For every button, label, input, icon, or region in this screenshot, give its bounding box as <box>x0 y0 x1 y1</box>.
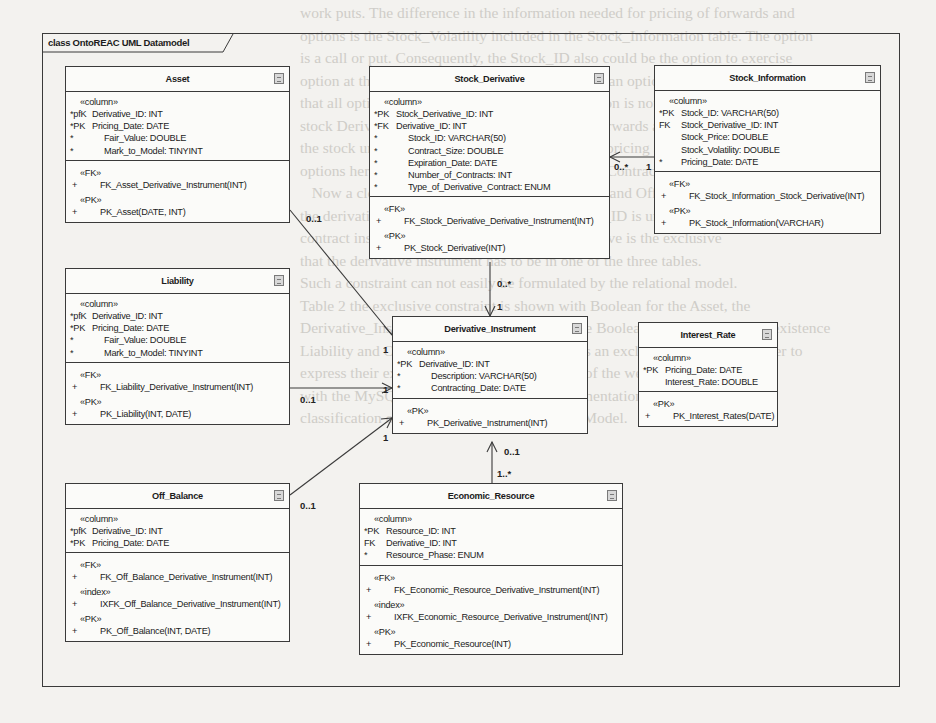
column-row[interactable]: *Number_of_Contracts: INT <box>374 169 605 181</box>
operation-stereotype: «index» <box>364 599 618 611</box>
column-row[interactable]: *Expiration_Date: DATE <box>374 157 605 169</box>
column-name: Stock_Derivative_ID: INT <box>681 119 876 131</box>
operation-row[interactable]: +PK_Economic_Resource(INT) <box>364 638 618 651</box>
column-key-marker: * <box>374 145 396 157</box>
column-stereotype: «column» <box>70 298 285 310</box>
column-row[interactable]: *Stock_ID: VARCHAR(50) <box>374 132 605 144</box>
operation-row[interactable]: +PK_Liability(INT, DATE) <box>70 408 285 421</box>
operation-row[interactable]: +IXFK_Economic_Resource_Derivative_Instr… <box>364 611 618 624</box>
column-row[interactable]: *PKDerivative_ID: INT <box>397 358 583 370</box>
operation-row[interactable]: +PK_Stock_Information(VARCHAR) <box>659 217 876 230</box>
visibility-marker: + <box>70 179 94 192</box>
column-row[interactable]: *FKDerivative_ID: INT <box>374 120 605 132</box>
operation-row[interactable]: +FK_Asset_Derivative_Instrument(INT) <box>70 179 285 192</box>
table-header: Stock_Derivative <box>370 67 609 92</box>
table-name: Derivative_Instrument <box>444 324 535 334</box>
column-name: Pricing_Date: DATE <box>92 537 285 549</box>
column-row[interactable]: Stock_Price: DOUBLE <box>659 131 876 143</box>
operation-row[interactable]: +PK_Interest_Rates(DATE) <box>643 410 773 423</box>
column-row[interactable]: *Fair_Value: DOUBLE <box>70 132 285 144</box>
column-row[interactable]: Stock_Volatility: DOUBLE <box>659 144 876 156</box>
column-row[interactable]: *PKPricing_Date: DATE <box>70 537 285 549</box>
column-row[interactable]: *Contract_Size: DOUBLE <box>374 145 605 157</box>
column-row[interactable]: *Resource_Phase: ENUM <box>364 549 618 561</box>
column-row[interactable]: *PKStock_Derivative_ID: INT <box>374 108 605 120</box>
column-row[interactable]: *Description: VARCHAR(50) <box>397 370 583 382</box>
column-row[interactable]: *Mark_to_Model: TINYINT <box>70 145 285 157</box>
table-name: Economic_Resource <box>448 491 535 501</box>
table-element-icon <box>607 490 617 501</box>
column-row[interactable]: *Type_of_Derivative_Contract: ENUM <box>374 181 605 193</box>
table-header: Economic_Resource <box>360 484 622 509</box>
table-element-icon <box>274 490 284 501</box>
columns-section: «column»*PKStock_ID: VARCHAR(50)FKStock_… <box>655 91 880 171</box>
operation-row[interactable]: +FK_Stock_Derivative_Derivative_Instrume… <box>374 215 605 228</box>
operation-name: FK_Stock_Derivative_Derivative_Instrumen… <box>398 215 594 228</box>
table-interest-rate[interactable]: Interest_Rate«column»*PKPricing_Date: DA… <box>638 322 778 427</box>
column-row[interactable]: *Mark_to_Model: TINYINT <box>70 347 285 359</box>
column-row[interactable]: *PKStock_ID: VARCHAR(50) <box>659 107 876 119</box>
column-name: Derivative_ID: INT <box>419 358 583 370</box>
table-economic-resource[interactable]: Economic_Resource«column»*PKResource_ID:… <box>359 483 623 655</box>
column-row[interactable]: *pfKDerivative_ID: INT <box>70 525 285 537</box>
column-key-marker: *pfK <box>70 108 92 120</box>
column-name: Resource_ID: INT <box>386 525 618 537</box>
table-off-balance[interactable]: Off_Balance«column»*pfKDerivative_ID: IN… <box>65 483 290 642</box>
operation-row[interactable]: +IXFK_Off_Balance_Derivative_Instrument(… <box>70 598 285 611</box>
mult-econ-dst: 0..1 <box>504 446 520 457</box>
operation-row[interactable]: +FK_Off_Balance_Derivative_Instrument(IN… <box>70 571 285 584</box>
operation-name: IXFK_Economic_Resource_Derivative_Instru… <box>388 611 607 624</box>
column-row[interactable]: Interest_Rate: DOUBLE <box>643 376 773 388</box>
mult-liability-src: 0..1 <box>300 394 316 405</box>
table-header: Interest_Rate <box>639 323 777 348</box>
column-name: Mark_to_Model: TINYINT <box>92 145 285 157</box>
column-key-marker: *PK <box>397 358 419 370</box>
operation-row[interactable]: +FK_Liability_Derivative_Instrument(INT) <box>70 381 285 394</box>
column-row[interactable]: *PKPricing_Date: DATE <box>70 322 285 334</box>
operation-row[interactable]: +PK_Off_Balance(INT, DATE) <box>70 625 285 638</box>
column-row[interactable]: *Fair_Value: DOUBLE <box>70 334 285 346</box>
column-key-marker: *PK <box>659 107 681 119</box>
operations-section: «FK»+FK_Stock_Information_Stock_Derivati… <box>655 171 880 233</box>
column-row[interactable]: *Contracting_Date: DATE <box>397 382 583 394</box>
column-key-marker: * <box>374 132 396 144</box>
operation-row[interactable]: +PK_Asset(DATE, INT) <box>70 206 285 219</box>
table-name: Off_Balance <box>152 491 203 501</box>
column-name: Derivative_ID: INT <box>92 310 285 322</box>
mult-econ-src: 1..* <box>497 468 511 479</box>
mult-stockder-src: 0..* <box>497 278 511 289</box>
column-row[interactable]: *PKResource_ID: INT <box>364 525 618 537</box>
operations-section: «PK»+PK_Derivative_Instrument(INT) <box>393 398 587 433</box>
column-row[interactable]: *PKPricing_Date: DATE <box>70 120 285 132</box>
column-row[interactable]: *pfKDerivative_ID: INT <box>70 310 285 322</box>
column-row[interactable]: *pfKDerivative_ID: INT <box>70 108 285 120</box>
operation-row[interactable]: +PK_Derivative_Instrument(INT) <box>397 417 583 430</box>
operation-row[interactable]: +FK_Stock_Information_Stock_Derivative(I… <box>659 190 876 203</box>
column-name: Resource_Phase: ENUM <box>386 549 618 561</box>
column-name: Stock_ID: VARCHAR(50) <box>396 132 605 144</box>
table-liability[interactable]: Liability«column»*pfKDerivative_ID: INT*… <box>65 268 290 425</box>
column-row[interactable]: *PKPricing_Date: DATE <box>643 364 773 376</box>
visibility-marker: + <box>659 217 683 230</box>
table-stock-derivative[interactable]: Stock_Derivative«column»*PKStock_Derivat… <box>369 66 610 259</box>
operations-section: «PK»+PK_Interest_Rates(DATE) <box>639 391 777 426</box>
mult-offbal-dst: 1 <box>383 432 388 443</box>
operation-row[interactable]: +FK_Economic_Resource_Derivative_Instrum… <box>364 584 618 597</box>
column-name: Derivative_ID: INT <box>92 525 285 537</box>
column-key-marker: *PK <box>70 120 92 132</box>
column-name: Stock_Price: DOUBLE <box>681 131 876 143</box>
column-row[interactable]: *Pricing_Date: DATE <box>659 156 876 168</box>
table-element-icon <box>762 329 772 340</box>
column-row[interactable]: FKDerivative_ID: INT <box>364 537 618 549</box>
table-asset[interactable]: Asset«column»*pfKDerivative_ID: INT*PKPr… <box>65 66 290 223</box>
column-name: Pricing_Date: DATE <box>665 364 773 376</box>
column-name: Number_of_Contracts: INT <box>396 169 605 181</box>
column-stereotype: «column» <box>397 346 583 358</box>
table-derivative-instrument[interactable]: Derivative_Instrument«column»*PKDerivati… <box>392 316 588 434</box>
column-name: Pricing_Date: DATE <box>681 156 876 168</box>
visibility-marker: + <box>70 625 94 638</box>
operation-row[interactable]: +PK_Stock_Derivative(INT) <box>374 242 605 255</box>
column-row[interactable]: FKStock_Derivative_ID: INT <box>659 119 876 131</box>
column-stereotype: «column» <box>374 96 605 108</box>
table-stock-information[interactable]: Stock_Information«column»*PKStock_ID: VA… <box>654 65 881 234</box>
